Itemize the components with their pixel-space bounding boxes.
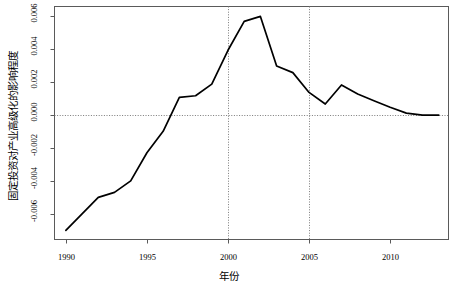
data-line (66, 16, 439, 230)
x-axis-ticks (67, 240, 391, 244)
y-axis-tick-labels: -0.006-0.004-0.0020.0000.0020.0040.006 (22, 0, 46, 250)
plot-area (0, 0, 458, 288)
y-axis-ticks (51, 17, 55, 215)
x-axis-tick-label: 2010 (382, 252, 399, 262)
y-axis-tick-label: -0.004 (22, 173, 46, 183)
plot-border (55, 7, 449, 240)
y-axis-tick-label: -0.006 (22, 206, 46, 216)
x-axis-tick-label: 2000 (220, 252, 237, 262)
chart-figure: 固定投资对产业高级化的影响程度 -0.006-0.004-0.0020.0000… (0, 0, 458, 288)
data-line-series (66, 16, 439, 230)
y-axis-tick-label: -0.002 (22, 140, 46, 150)
x-axis-title: 年份 (0, 268, 458, 283)
y-axis-tick-label: 0.006 (22, 8, 46, 18)
y-axis-tick-label: 0.004 (22, 41, 46, 51)
y-axis-tick-label: 0.002 (22, 74, 46, 84)
y-axis-title: 固定投资对产业高级化的影响程度 (0, 0, 24, 250)
y-axis-title-text: 固定投资对产业高级化的影响程度 (5, 50, 20, 200)
x-axis-tick-label: 1990 (58, 252, 75, 262)
y-axis-tick-label: 0.000 (22, 107, 46, 117)
x-axis-tick-label: 2005 (301, 252, 318, 262)
x-axis-tick-labels: 19901995200020052010 (0, 252, 458, 268)
x-axis-tick-label: 1995 (139, 252, 156, 262)
reference-lines (55, 7, 449, 240)
